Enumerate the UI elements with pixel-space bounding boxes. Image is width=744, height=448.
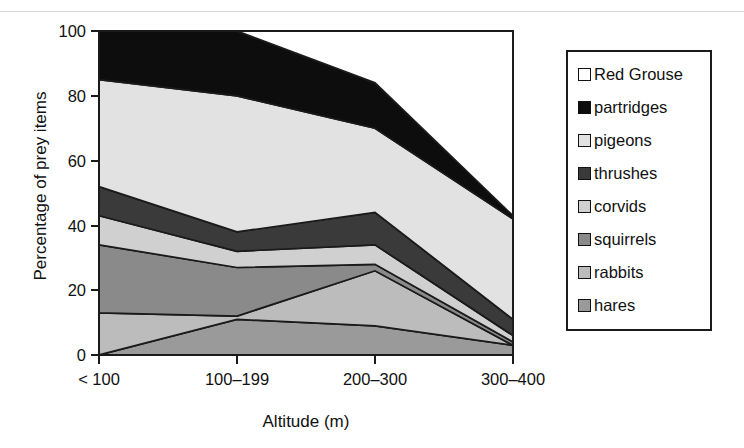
legend-item-rabbits[interactable]: rabbits (578, 256, 710, 289)
legend-swatch-thrushes-icon (578, 167, 591, 180)
x-tick-label-lt100: < 100 (44, 370, 154, 389)
legend-item-partridges[interactable]: partridges (578, 91, 710, 124)
legend-label-squirrels: squirrels (594, 231, 656, 248)
legend-item-pigeons[interactable]: pigeons (578, 124, 710, 157)
figure-stacked-area-prey-by-altitude: 100 80 60 40 20 0 Percentage of prey ite… (0, 0, 744, 448)
legend-label-thrushes: thrushes (594, 165, 657, 182)
legend-item-red-grouse[interactable]: Red Grouse (578, 58, 710, 91)
legend-label-pigeons: pigeons (594, 132, 652, 149)
y-axis-ticks (91, 31, 99, 355)
legend-item-squirrels[interactable]: squirrels (578, 223, 710, 256)
legend-item-hares[interactable]: hares (578, 289, 710, 322)
x-tick-label-200-300: 200–300 (320, 370, 430, 389)
x-axis-ticks (99, 355, 513, 364)
x-tick-label-100-199: 100–199 (182, 370, 292, 389)
legend-item-corvids[interactable]: corvids (578, 190, 710, 223)
legend-swatch-red-grouse-icon (578, 68, 591, 81)
y-tick-label-100: 100 (44, 22, 86, 41)
area-bands-group (99, 2, 513, 355)
x-axis-title: Altitude (m) (99, 412, 513, 432)
legend-item-thrushes[interactable]: thrushes (578, 157, 710, 190)
legend-label-red-grouse: Red Grouse (594, 66, 683, 83)
legend-swatch-corvids-icon (578, 200, 591, 213)
y-axis-title: Percentage of prey items (31, 71, 51, 301)
chart-legend: Red Grouse partridges pigeons thrushes c… (566, 50, 712, 331)
legend-swatch-pigeons-icon (578, 134, 591, 147)
legend-swatch-hares-icon (578, 299, 591, 312)
x-tick-label-300-400: 300–400 (458, 370, 568, 389)
legend-label-corvids: corvids (594, 198, 646, 215)
legend-swatch-rabbits-icon (578, 266, 591, 279)
legend-label-hares: hares (594, 297, 635, 314)
legend-swatch-partridges-icon (578, 101, 591, 114)
legend-label-rabbits: rabbits (594, 264, 644, 281)
legend-label-partridges: partridges (594, 99, 667, 116)
y-tick-label-0: 0 (44, 346, 86, 365)
legend-swatch-squirrels-icon (578, 233, 591, 246)
